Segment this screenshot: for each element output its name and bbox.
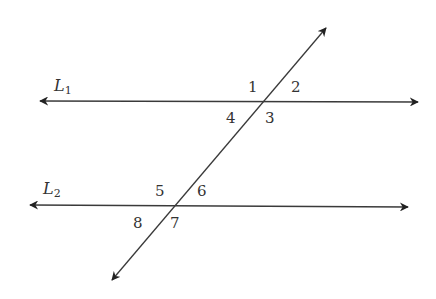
diagram-lines (0, 0, 436, 299)
angle-label-4: 4 (226, 111, 236, 126)
angle-label-6: 6 (197, 184, 207, 199)
angle-label-7: 7 (170, 216, 180, 231)
angle-label-5: 5 (155, 184, 165, 199)
angle-label-1: 1 (248, 80, 258, 95)
line-l2 (30, 205, 408, 207)
transversal (112, 28, 326, 280)
angle-label-2: 2 (291, 80, 301, 95)
line-l1 (40, 101, 418, 102)
line-label-l1: L1 (54, 78, 72, 96)
line-label-l2: L2 (43, 181, 61, 199)
angle-label-3: 3 (265, 111, 275, 126)
diagram-canvas: L1 L2 1 2 3 4 5 6 7 8 (0, 0, 436, 299)
angle-label-8: 8 (133, 216, 143, 231)
